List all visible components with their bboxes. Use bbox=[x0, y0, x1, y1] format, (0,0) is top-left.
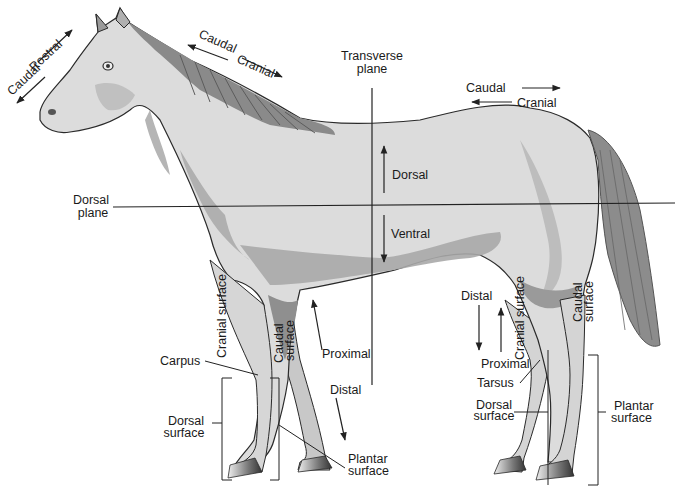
label-neck-cranial: Cranial bbox=[235, 52, 277, 81]
nostril bbox=[48, 109, 56, 115]
label-fore-dorsal-surface-2: surface bbox=[164, 426, 205, 440]
label-hind-distal: Distal bbox=[461, 289, 492, 303]
label-fore-distal: Distal bbox=[330, 383, 361, 397]
hoof-near-fore bbox=[228, 458, 262, 478]
horse-illustration bbox=[40, 8, 660, 480]
label-back-cranial: Cranial bbox=[517, 96, 557, 110]
horse-body bbox=[40, 8, 599, 470]
label-head-rostral: Rostral bbox=[26, 37, 65, 74]
label-fore-caudal-surface-2: surface bbox=[283, 320, 297, 361]
label-hind-proximal: Proximal bbox=[481, 357, 530, 371]
label-dorsal-plane-1: Dorsal bbox=[73, 193, 109, 207]
label-dorsal: Dorsal bbox=[392, 168, 428, 182]
label-back-caudal: Caudal bbox=[466, 81, 506, 95]
label-tarsus: Tarsus bbox=[477, 376, 514, 390]
label-neck-caudal: Caudal bbox=[197, 27, 239, 56]
hoof-near-hind bbox=[536, 460, 574, 480]
label-fore-cranial-surface: Cranial surface bbox=[215, 274, 229, 358]
label-ventral: Ventral bbox=[391, 227, 430, 241]
eye-pupil bbox=[106, 64, 110, 68]
label-hind-plantar-surface-2: surface bbox=[611, 411, 652, 425]
arrow-fore-distal bbox=[336, 398, 345, 440]
label-carpus: Carpus bbox=[160, 354, 200, 368]
label-fore-plantar-surface-2: surface bbox=[348, 464, 389, 478]
label-transverse-plane-2: plane bbox=[357, 62, 388, 76]
label-hind-cranial-surface: Cranial surface bbox=[513, 276, 527, 360]
label-dorsal-plane-2: plane bbox=[78, 206, 109, 220]
label-fore-proximal: Proximal bbox=[322, 347, 371, 361]
hind-plantar-bracket bbox=[588, 355, 598, 485]
label-transverse-plane-1: Transverse bbox=[341, 49, 403, 63]
horse-anatomy-diagram: Caudal Rostral Caudal Cranial Transverse… bbox=[0, 0, 675, 492]
label-hind-caudal-surface-2: surface bbox=[582, 281, 596, 322]
label-hind-dorsal-surface-2: surface bbox=[474, 409, 515, 423]
arrow-fore-proximal bbox=[313, 300, 322, 350]
